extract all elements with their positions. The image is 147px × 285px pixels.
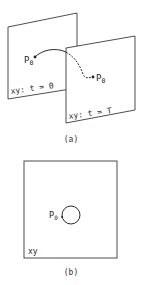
plane-xy [24, 161, 117, 258]
diagram-canvas: xy: t = 0 P0 xy: t = T P0 (a) P0 xy (b) [0, 0, 147, 285]
figure-a: xy: t = 0 P0 xy: t = T P0 (a) [8, 13, 135, 144]
end-point-dot [92, 76, 95, 79]
start-point-dot [34, 56, 37, 59]
caption-a: (a) [64, 135, 78, 144]
figure-b: P0 xy (b) [24, 161, 117, 277]
point-dot [61, 216, 63, 218]
caption-b: (b) [64, 268, 78, 277]
plane-xy-label: xy [28, 247, 38, 256]
